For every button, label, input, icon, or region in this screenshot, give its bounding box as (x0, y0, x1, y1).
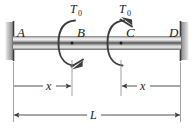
label-torque-B: T 0 (70, 2, 82, 18)
fixed-support-right (181, 21, 190, 61)
extension-lines (14, 60, 181, 122)
label-torque-B-symbol: T (70, 2, 78, 16)
left-wall-hatch-band (5, 22, 13, 60)
shaft-body (13, 37, 181, 50)
fixed-support-left (5, 21, 14, 61)
label-torque-B-subscript: 0 (78, 9, 82, 18)
label-torque-C-symbol: T (119, 2, 127, 16)
torsion-shaft-figure: A B C D T 0 T 0 x x L (0, 0, 194, 129)
label-point-D: D (168, 25, 179, 40)
label-dimension-L: L (89, 108, 97, 122)
label-dimension-x-right: x (139, 79, 146, 93)
label-torque-C-subscript: 0 (127, 9, 131, 18)
label-torque-C: T 0 (119, 2, 131, 18)
point-C-center-dot (120, 42, 123, 45)
label-point-B: B (77, 25, 85, 40)
label-point-A: A (16, 25, 25, 40)
label-point-C: C (126, 25, 135, 40)
figure-canvas: A B C D T 0 T 0 x x L (0, 0, 194, 129)
point-B-center-dot (71, 42, 74, 45)
label-dimension-x-left: x (45, 79, 52, 93)
right-wall-hatch-band (181, 22, 189, 60)
